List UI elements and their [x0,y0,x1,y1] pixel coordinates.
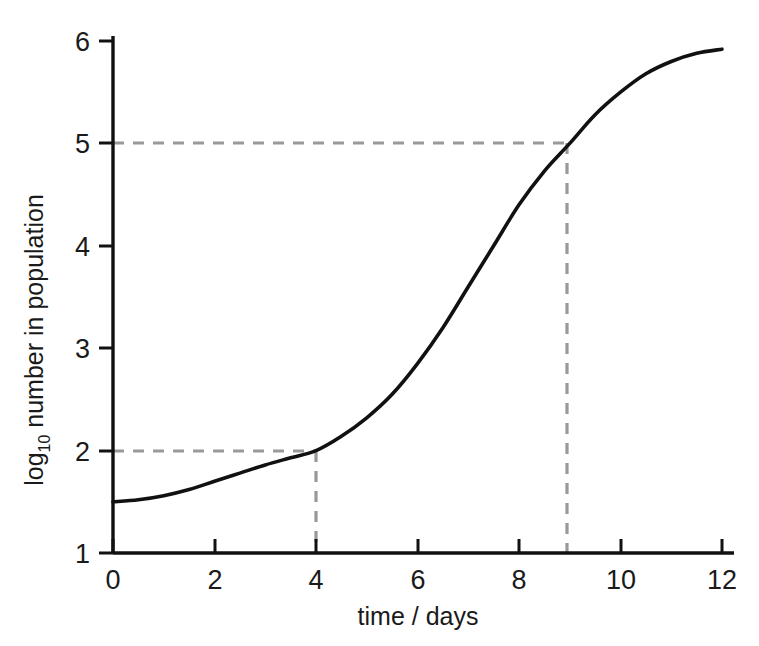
x-tick-label-12: 12 [707,565,737,595]
x-tick-label-2: 2 [207,565,222,595]
chart-canvas: 6 5 4 3 2 1 0 2 4 6 8 10 12 time / days … [0,0,759,646]
y-tick-label-3: 3 [75,334,90,364]
y-tick-label-4: 4 [75,232,90,262]
y-tick-label-1: 1 [75,539,90,569]
y-tick-label-6: 6 [75,27,90,57]
y-axis-title-prefix: log [20,452,48,485]
x-tick-label-4: 4 [308,565,323,595]
y-axis-title-rest: number in population [20,194,48,428]
x-tick-label-0: 0 [105,565,120,595]
x-tick-label-8: 8 [511,565,526,595]
x-tick-label-10: 10 [606,565,636,595]
y-tick-label-5: 5 [75,129,90,159]
y-axis-title-subscript: 10 [36,435,53,453]
growth-curve-figure: 6 5 4 3 2 1 0 2 4 6 8 10 12 time / days … [0,0,759,646]
x-tick-label-6: 6 [410,565,425,595]
y-tick-label-2: 2 [75,437,90,467]
y-axis-title-main [20,428,48,435]
x-axis-title: time / days [358,602,479,630]
